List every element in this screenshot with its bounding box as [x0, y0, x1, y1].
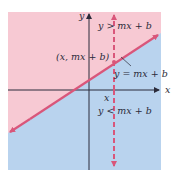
- lower-inequality-label: y < mx + b: [97, 105, 152, 116]
- point-label: (x, mx + b): [56, 51, 110, 62]
- point-on-line: [112, 60, 116, 64]
- half-plane-diagram: y x y > mx + b (x, mx + b) y = mx + b x …: [0, 0, 180, 179]
- x-axis-label: x: [165, 84, 171, 95]
- upper-inequality-label: y > mx + b: [97, 20, 152, 31]
- y-axis-label: y: [78, 10, 85, 21]
- line-equation-label: y = mx + b: [113, 68, 168, 79]
- x-tick-label: x: [104, 92, 110, 103]
